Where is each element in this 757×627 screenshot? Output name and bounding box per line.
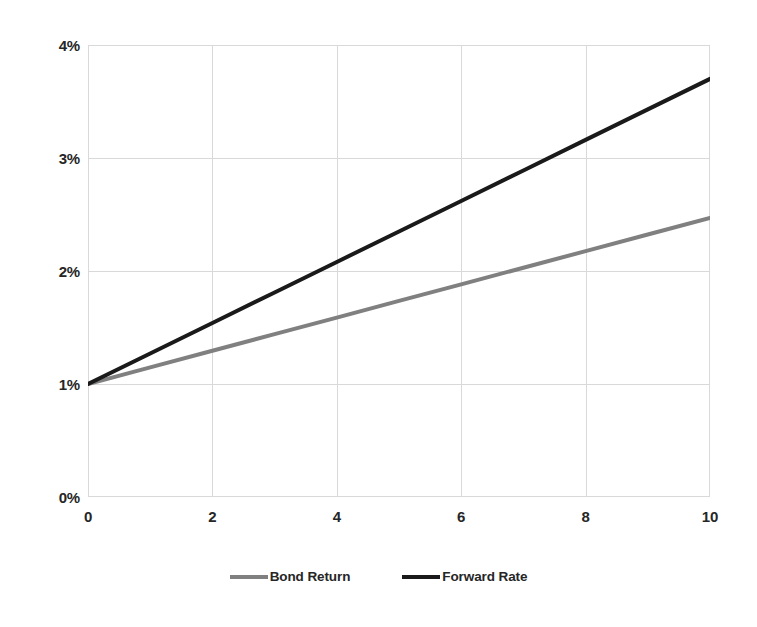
x-axis-tick-label: 8 <box>556 509 616 524</box>
legend-label: Forward Rate <box>442 570 527 584</box>
x-axis-tick-label: 0 <box>58 509 118 524</box>
x-axis-tick-label: 6 <box>431 509 491 524</box>
legend-entry[interactable]: Forward Rate <box>402 570 527 584</box>
x-axis: 0246810 <box>0 0 757 627</box>
line-chart: 0%1%2%3%4% 0246810 Bond ReturnForward Ra… <box>0 0 757 627</box>
chart-legend: Bond ReturnForward Rate <box>0 570 757 584</box>
x-axis-tick-label: 4 <box>307 509 367 524</box>
legend-label: Bond Return <box>270 570 351 584</box>
legend-line-swatch <box>230 575 268 579</box>
legend-line-swatch <box>402 575 440 579</box>
x-axis-tick-label: 2 <box>182 509 242 524</box>
legend-entry[interactable]: Bond Return <box>230 570 351 584</box>
x-axis-tick-label: 10 <box>680 509 740 524</box>
